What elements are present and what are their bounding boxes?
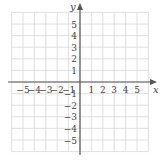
axes — [8, 3, 157, 155]
x-tick-label: 1 — [89, 85, 95, 95]
x-axis-label: x — [153, 84, 159, 95]
y-tick-label: −2 — [64, 101, 77, 111]
y-tick-label: 1 — [71, 66, 77, 76]
x-tick-label: 4 — [123, 85, 129, 95]
x-tick-label: 5 — [134, 85, 140, 95]
y-tick-label: −3 — [64, 112, 78, 122]
y-tick-label: 2 — [71, 54, 77, 64]
x-tick-label: 3 — [111, 85, 117, 95]
y-tick-label: 3 — [71, 43, 77, 53]
coordinate-plane: x y −5−4−3−2−112345 54321−1−2−3−4−5 — [0, 0, 162, 167]
y-tick-label: −1 — [64, 89, 77, 99]
y-tick-label: 5 — [71, 20, 77, 30]
x-tick-label: 2 — [100, 85, 106, 95]
y-tick-label: 4 — [71, 31, 77, 41]
y-axis-label: y — [69, 1, 76, 12]
y-tick-label: −5 — [64, 136, 78, 146]
y-tick-label: −4 — [64, 124, 78, 134]
y-axis-arrow-icon — [77, 3, 83, 10]
